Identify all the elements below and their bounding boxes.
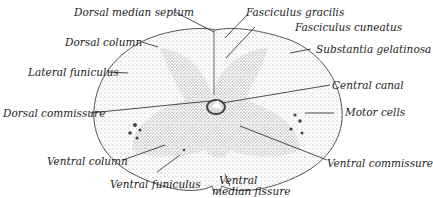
label-dorsal-column: Dorsal column	[65, 36, 142, 48]
label-substantia-gelatinosa: Substantia gelatinosa	[316, 43, 431, 55]
label-fasciculus-cuneatus: Fasciculus cuneatus	[295, 21, 402, 33]
label-dorsal-median-septum: Dorsal median septum	[74, 6, 194, 18]
label-central-canal: Central canal	[332, 79, 404, 91]
label-ventral-column: Ventral column	[47, 155, 128, 167]
label-motor-cells: Motor cells	[345, 106, 405, 118]
label-fasciculus-gracilis: Fasciculus gracilis	[246, 6, 344, 18]
label-ventral-commissure: Ventral commissure	[327, 157, 433, 169]
label-ventral-funiculus: Ventral funiculus	[110, 178, 201, 190]
label-ventral-median-fissure-line2: median fissure	[212, 185, 290, 197]
label-dorsal-commissure: Dorsal commissure	[3, 107, 105, 119]
label-lateral-funiculus: Lateral funiculus	[28, 66, 119, 78]
